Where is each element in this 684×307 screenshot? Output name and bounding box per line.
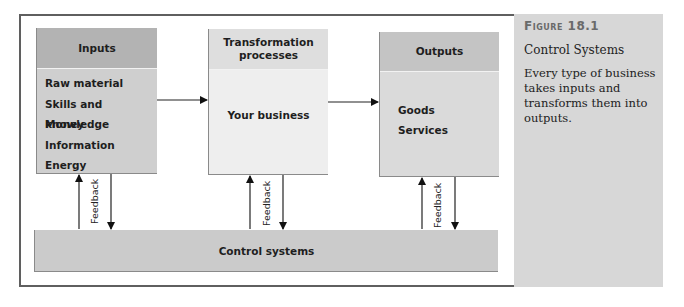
feedback-label: Feedback: [261, 181, 272, 226]
feedback-label: Feedback: [89, 179, 100, 224]
arrows-layer: [0, 0, 684, 307]
feedback-label: Feedback: [432, 183, 443, 228]
